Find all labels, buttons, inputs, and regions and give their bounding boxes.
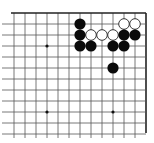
black-stone <box>129 29 140 40</box>
black-stone <box>74 40 85 51</box>
white-stone <box>97 30 108 41</box>
white-stone <box>119 19 130 30</box>
go-board[interactable] <box>0 0 154 143</box>
black-stone <box>107 40 118 51</box>
black-stone <box>74 29 85 40</box>
star-point <box>45 110 48 113</box>
star-point <box>45 44 48 47</box>
black-stone <box>74 18 85 29</box>
white-stone <box>130 19 141 30</box>
white-stone <box>86 30 97 41</box>
black-stone <box>118 29 129 40</box>
black-stone <box>85 40 96 51</box>
black-stone <box>107 62 118 73</box>
black-stone <box>118 40 129 51</box>
star-point <box>111 110 114 113</box>
white-stone <box>108 30 119 41</box>
